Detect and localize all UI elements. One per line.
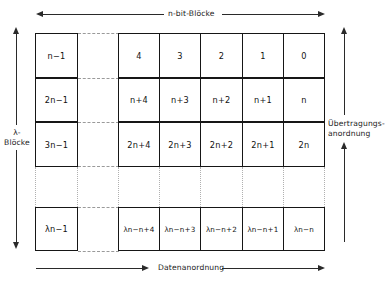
left-block-cell-3: λn−1 [35,207,78,251]
grid-cell-r1-c4: n [283,78,325,122]
right-axis-label-line1: Übertragungs- [328,119,385,129]
right-axis-arrow-up-lower [341,142,347,149]
right-axis-line-upper [344,33,345,115]
grid-cell-r2-c2: 2n+2 [200,122,243,167]
dotted-connector-grid-c5 [324,167,325,207]
grid-cell-r3-c4: λn−n [283,207,325,251]
left-axis-label-line2: Blöcke [1,138,33,148]
left-axis-label: λ- Blöcke [1,128,33,147]
dotted-connector-grid-c1 [159,167,160,207]
dotted-connector-grid-c4 [283,167,284,207]
grid-cell-r1-c2: n+2 [200,78,243,122]
left-block-cell-2: 3n−1 [35,122,78,167]
left-axis-arrow-up [13,27,19,34]
dotted-connector-left-block-l [35,167,36,207]
left-axis-label-line1: λ- [1,128,33,138]
grid-cell-r2-c3: 2n+1 [242,122,284,167]
bottom-axis-line-left [36,268,142,269]
grid-cell-r0-c2: 2 [200,33,243,78]
left-axis-arrow-down [13,242,19,249]
grid-cell-r3-c0: λn−n+4 [118,207,160,251]
top-axis-label: n-bit-Blöcke [166,9,217,18]
bottom-axis-arrow-mid [142,265,149,271]
dashed-connector-row-last-top [78,207,119,208]
grid-cell-r1-c1: n+3 [159,78,201,122]
left-axis-line-lower [16,150,17,242]
grid-cell-r3-c1: λn−n+3 [159,207,201,251]
grid-cell-r3-c2: λn−n+2 [200,207,243,251]
left-block-cell-1: 2n−1 [35,78,78,122]
top-axis-arrow-right [318,11,325,17]
right-axis-line-lower [344,148,345,242]
grid-cell-r0-c0: 4 [118,33,160,78]
top-axis-arrow-left [36,11,43,17]
dashed-connector-row1 [78,78,119,79]
dashed-connector-bottom [78,251,119,252]
dashed-connector-top [78,33,119,34]
top-axis-line-left [42,14,164,15]
dotted-connector-left-block-r [77,167,78,207]
left-block-cell-0: n−1 [35,33,78,78]
bottom-axis-label: Datenanordnung [156,263,226,272]
right-axis-arrow-up [341,27,347,34]
top-axis-line-right [222,14,318,15]
dotted-connector-grid-c2 [200,167,201,207]
bottom-axis-arrow-right [318,265,325,271]
left-axis-line [16,33,17,125]
dotted-connector-grid-c3 [242,167,243,207]
dashed-connector-row2 [78,122,119,123]
right-axis-label: Übertragungs- anordnung [328,119,385,138]
grid-cell-r2-c4: 2n [283,122,325,167]
bottom-axis-line-right [222,268,318,269]
dashed-connector-row3 [78,166,119,167]
grid-cell-r1-c0: n+4 [118,78,160,122]
dotted-connector-grid-c0 [118,167,119,207]
grid-cell-r0-c4: 0 [283,33,325,78]
grid-cell-r2-c0: 2n+4 [118,122,160,167]
right-axis-label-line2: anordnung [328,129,385,139]
grid-cell-r2-c1: 2n+3 [159,122,201,167]
grid-cell-r0-c3: 1 [242,33,284,78]
grid-cell-r0-c1: 3 [159,33,201,78]
grid-cell-r3-c3: λn−n+1 [242,207,284,251]
grid-cell-r1-c3: n+1 [242,78,284,122]
